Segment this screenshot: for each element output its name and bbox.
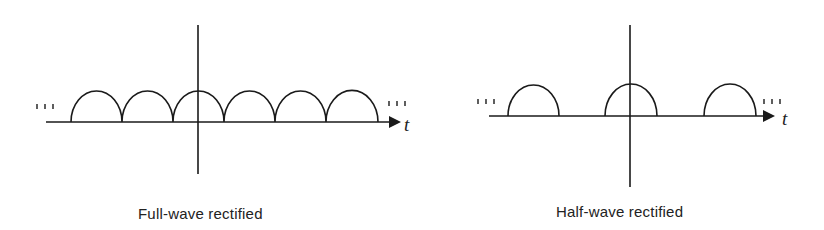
half-wave-signal (508, 84, 756, 116)
half-wave-axis-arrow-icon (763, 110, 775, 122)
half-wave-right-ellipsis (764, 99, 780, 104)
half-wave-plot (478, 25, 780, 187)
half-wave-caption: Half-wave rectified (556, 203, 683, 220)
full-wave-axis-arrow-icon (389, 116, 401, 128)
rectified-waveforms-diagram (0, 0, 824, 230)
half-wave-t-label: t (782, 108, 787, 130)
half-wave-left-ellipsis (478, 99, 494, 104)
full-wave-signal (71, 90, 378, 122)
full-wave-t-label: t (404, 114, 409, 136)
full-wave-plot (37, 25, 405, 174)
full-wave-left-ellipsis (37, 104, 53, 109)
full-wave-right-ellipsis (389, 101, 405, 106)
full-wave-caption: Full-wave rectified (138, 205, 263, 222)
